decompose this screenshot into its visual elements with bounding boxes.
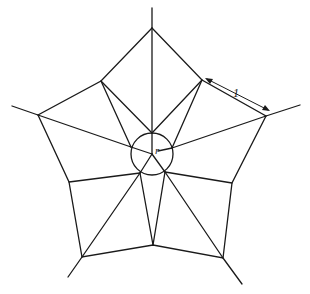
arrowhead-end-icon xyxy=(262,105,270,111)
radius-label: r xyxy=(155,144,160,156)
diagram-svg: 1 r xyxy=(0,0,310,294)
inner-edges xyxy=(38,28,266,258)
pentagon-network-diagram: 1 r xyxy=(0,0,310,294)
edge-length-label: 1 xyxy=(233,86,239,100)
